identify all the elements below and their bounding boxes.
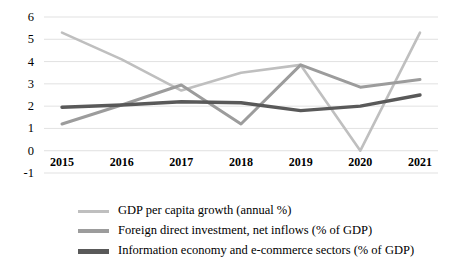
y-tick-label-5: 5 (8, 33, 34, 46)
x-tick-label-2017: 2017 (158, 156, 204, 168)
x-tick-label-2018: 2018 (218, 156, 264, 168)
legend-label-series-1: Foreign direct investment, net inflows (… (118, 224, 372, 238)
legend-item-gdp-per-capita-growth: GDP per capita growth (annual %) (78, 202, 291, 220)
y-tick-label-4: 4 (8, 56, 34, 69)
y-tick-label-neg1: -1 (8, 167, 34, 180)
legend-label-series-0: GDP per capita growth (annual %) (118, 204, 291, 218)
y-tick-label-6: 6 (8, 11, 34, 24)
x-tick-label-2020: 2020 (337, 156, 383, 168)
y-tick-label-0: 0 (8, 145, 34, 158)
y-tick-label-2: 2 (8, 100, 34, 113)
x-tick-label-2016: 2016 (99, 156, 145, 168)
chart-legend: GDP per capita growth (annual %) Foreign… (0, 198, 460, 271)
legend-label-series-2: Information economy and e-commerce secto… (118, 244, 414, 258)
x-tick-label-2019: 2019 (278, 156, 324, 168)
plot-area: -10123456 2015201620172018201920202021 (0, 0, 460, 195)
x-tick-label-2015: 2015 (39, 156, 85, 168)
legend-color-swatch-series-1 (78, 229, 109, 233)
legend-item-foreign-direct-investment: Foreign direct investment, net inflows (… (78, 222, 372, 240)
legend-color-swatch-series-2 (78, 249, 109, 254)
y-tick-label-1: 1 (8, 122, 34, 135)
x-tick-label-2021: 2021 (397, 156, 443, 168)
y-tick-label-3: 3 (8, 78, 34, 91)
legend-item-information-economy: Information economy and e-commerce secto… (78, 242, 414, 260)
legend-color-swatch-series-0 (78, 210, 109, 213)
line-chart-figure: -10123456 2015201620172018201920202021 G… (0, 0, 460, 271)
axis-labels: -10123456 2015201620172018201920202021 (0, 0, 460, 195)
